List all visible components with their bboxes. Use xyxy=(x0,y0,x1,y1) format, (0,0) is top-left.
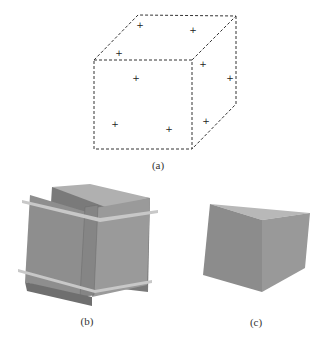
svg-text:+: + xyxy=(136,20,144,30)
svg-text:+: + xyxy=(111,119,119,129)
cube-a-front-face xyxy=(94,60,192,149)
panel-a-label: (a) xyxy=(152,159,164,171)
svg-text:+: + xyxy=(202,116,210,126)
figure-canvas: + + + + + + + + + xyxy=(0,0,325,349)
panel-b-label: (b) xyxy=(81,315,94,327)
panel-c-solid-cube xyxy=(203,204,310,292)
svg-text:+: + xyxy=(199,59,207,69)
svg-text:+: + xyxy=(132,73,140,83)
panel-c-label: (c) xyxy=(250,316,262,328)
svg-text:+: + xyxy=(115,48,123,58)
svg-text:+: + xyxy=(165,124,173,134)
cube-c-right xyxy=(262,213,310,292)
svg-text:+: + xyxy=(189,25,197,35)
svg-text:+: + xyxy=(226,73,234,83)
panel-b-slab-cube xyxy=(18,184,158,306)
